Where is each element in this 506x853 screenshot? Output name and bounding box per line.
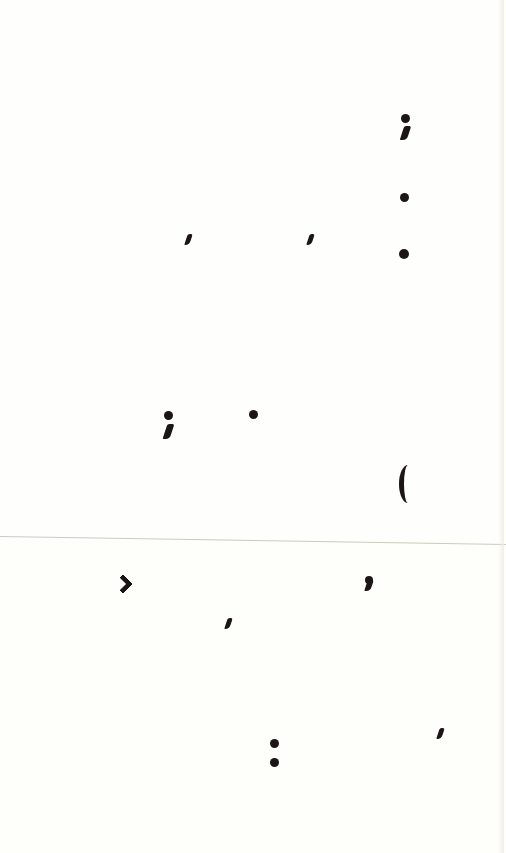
lower-sheet	[0, 541, 504, 853]
period-mark	[249, 410, 259, 420]
colon-mark	[270, 739, 280, 769]
comma-mark	[364, 576, 374, 592]
period-mark	[400, 193, 410, 203]
chevron-mark	[116, 574, 132, 592]
comma-mark	[225, 618, 232, 630]
upper-sheet	[0, 0, 504, 541]
comma-mark	[185, 234, 192, 246]
period-mark	[399, 249, 409, 259]
comma-mark	[437, 728, 444, 740]
page-edge	[498, 0, 504, 853]
open-parenthesis-mark	[399, 465, 417, 503]
comma-mark	[307, 234, 314, 246]
semicolon-mark	[164, 411, 176, 441]
semicolon-mark	[400, 113, 412, 143]
